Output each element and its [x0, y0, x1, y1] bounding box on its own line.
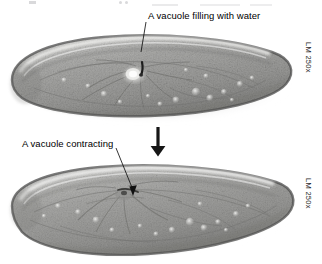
- micrograph-panel-bottom: [0, 160, 300, 264]
- cell-body-bottom: [10, 165, 293, 255]
- micrograph-panel-top: [0, 22, 300, 126]
- artifact-fragment: [125, 1, 128, 4]
- artifact-fragment: [119, 1, 122, 4]
- down-arrow-icon: [146, 126, 172, 158]
- magnification-label-bottom: LM 250x: [304, 178, 313, 209]
- artifact-fragment: [152, 4, 178, 6]
- artifact-fragment: [29, 1, 36, 4]
- artifact-fragment: [200, 4, 240, 6]
- annotation-label-vacuole-filling: A vacuole filling with water: [148, 10, 260, 21]
- magnification-label-top: LM 250x: [304, 42, 313, 73]
- contractile-vacuole-figure: A vacuole filling with water LM 250x: [0, 0, 322, 264]
- artifact-fragment: [250, 4, 272, 6]
- cropped-text-artifacts: [0, 0, 322, 8]
- paramecium-image-bottom: [0, 160, 300, 264]
- paramecium-image-top: [0, 22, 300, 126]
- annotation-label-vacuole-contracting: A vacuole contracting: [22, 138, 113, 149]
